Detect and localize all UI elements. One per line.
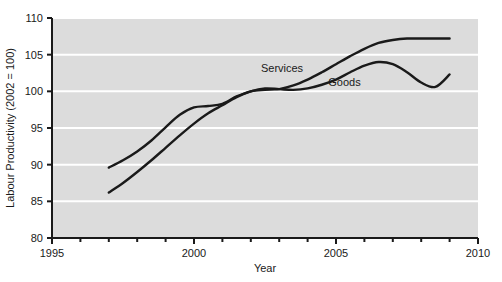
x-tick-label: 2000: [182, 247, 206, 259]
x-axis-title: Year: [254, 262, 277, 274]
series-label-goods: Goods: [328, 76, 361, 88]
y-tick-label: 100: [25, 85, 43, 97]
y-axis-title: Labour Productivity (2002 = 100): [4, 48, 16, 208]
y-tick-label: 110: [25, 12, 43, 24]
x-tick-label: 2005: [324, 247, 348, 259]
y-tick-label: 95: [31, 122, 43, 134]
y-tick-label: 85: [31, 195, 43, 207]
x-tick-label: 2010: [466, 247, 490, 259]
y-tick-label: 105: [25, 49, 43, 61]
series-label-services: Services: [261, 62, 304, 74]
line-chart: 80859095100105110 1995200020052010 Servi…: [0, 0, 502, 282]
y-tick-label: 90: [31, 159, 43, 171]
y-tick-label: 80: [31, 232, 43, 244]
x-tick-label: 1995: [40, 247, 64, 259]
chart-container: 80859095100105110 1995200020052010 Servi…: [0, 0, 502, 282]
